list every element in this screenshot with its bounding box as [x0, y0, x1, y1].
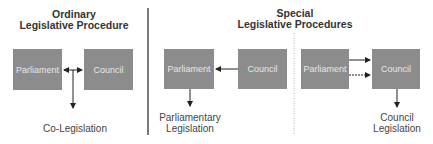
special-council-council-box: Council [372, 49, 420, 89]
council-legislation-line1: Council [367, 112, 427, 123]
special-title-line2: Legislative Procedures [225, 19, 365, 30]
ordinary-result-label: Co-Legislation [25, 123, 125, 134]
ordinary-parliament-box: Parliament [13, 49, 62, 90]
parliamentary-legislation-line1: Parliamentary [149, 112, 231, 123]
council-legislation-label: Council Legislation [367, 112, 427, 134]
special-parliamentary-parliament-box: Parliament [164, 49, 214, 89]
parliamentary-legislation-line2: Legislation [149, 123, 231, 134]
parliamentary-legislation-label: Parliamentary Legislation [149, 112, 231, 134]
special-title: Special Legislative Procedures [225, 8, 365, 30]
council-legislation-line2: Legislation [367, 123, 427, 134]
ordinary-council-box: Council [84, 49, 133, 90]
special-council-parliament-box: Parliament [301, 49, 349, 89]
ordinary-title-line2: Legislative Procedure [13, 20, 135, 31]
ordinary-title: Ordinary Legislative Procedure [13, 9, 135, 31]
special-parliamentary-council-box: Council [238, 49, 287, 89]
